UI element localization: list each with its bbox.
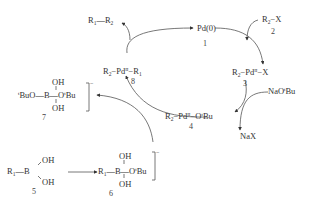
base-naotbu: NaOtBu — [268, 87, 295, 96]
label-4: 4 — [189, 123, 193, 131]
pd-r2-x-complex: R2−PdII−X — [232, 68, 268, 79]
reaction-arrows — [0, 0, 311, 202]
arrow-naotbu-naX — [240, 92, 268, 130]
borate-7-charge: − — [90, 80, 93, 86]
borate-7-oh-bottom: OH — [52, 104, 64, 113]
arrow-pd0-to-3 — [215, 28, 263, 64]
borate-6-oh-bottom: OH — [119, 180, 131, 189]
label-6: 6 — [109, 190, 113, 198]
label-7: 7 — [42, 114, 46, 122]
label-8: 8 — [131, 78, 135, 86]
label-5: 5 — [32, 188, 36, 196]
arrow-to-product — [122, 23, 130, 40]
pd-r2-otbu-complex: R2−PdII−OtBu — [165, 112, 213, 123]
borate-6-oh-top: OH — [119, 152, 131, 161]
arrow-8-to-pd0 — [127, 28, 193, 53]
boronic-acid-oh-bottom: OH — [42, 178, 54, 187]
borate-6-charge: − — [156, 149, 159, 155]
pd-r2-r1-complex: R2−PdII−R1 — [103, 67, 142, 78]
boronic-acid-oh-top: OH — [42, 156, 54, 165]
byproduct-nax: NaX — [240, 132, 256, 141]
borate-7-oh-top: OH — [52, 78, 64, 87]
aryl-halide: R2−X — [262, 15, 281, 26]
borate-6: R1—B—OtBu — [98, 167, 147, 178]
borate-7: tBuO—B—OtBu — [18, 91, 76, 100]
label-1: 1 — [203, 40, 207, 48]
catalytic-cycle-diagram: R1—R2 Pd(0) 1 R2−X 2 R2−PdII−X 3 NaOtBu … — [0, 0, 311, 202]
label-2: 2 — [271, 28, 275, 36]
product-r1-r2: R1—R2 — [88, 16, 113, 27]
label-3: 3 — [243, 80, 247, 88]
boronic-acid: R1—B — [7, 167, 30, 178]
pd0-catalyst: Pd(0) — [197, 24, 216, 33]
